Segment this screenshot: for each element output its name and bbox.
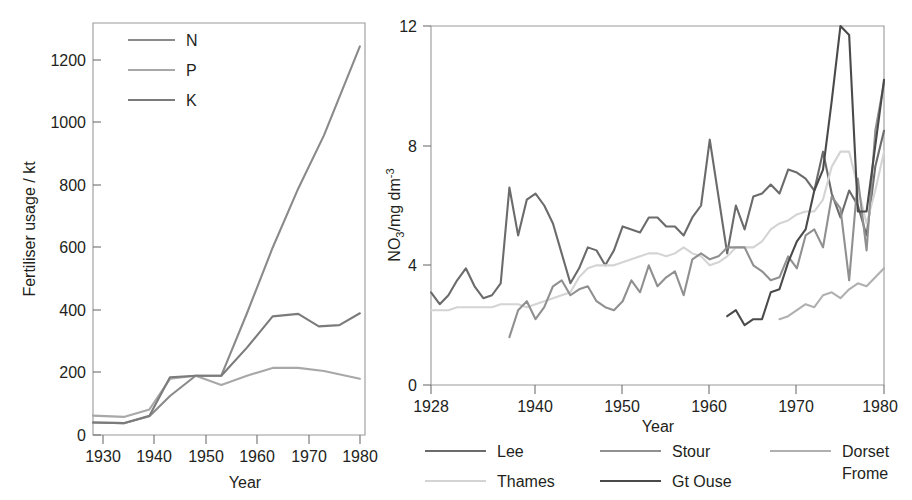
right-yaxis-sup: -3 <box>384 168 396 178</box>
left-y-ticks <box>93 60 101 435</box>
legend-label-gt-ouse: Gt Ouse <box>672 473 732 490</box>
right-legend: Lee Thames Stour Gt Ouse Dorset Frome <box>425 443 890 490</box>
right-y-ticks <box>423 26 431 385</box>
right-xtick-label-1940: 1940 <box>517 398 553 415</box>
left-xtick-label-1960: 1960 <box>239 448 275 465</box>
dual-line-chart-svg: 0 200 400 600 800 1000 1200 1930 1940 19… <box>0 0 912 500</box>
left-xtick-label-1970: 1970 <box>291 448 327 465</box>
left-xtick-label-1950: 1950 <box>188 448 224 465</box>
right-ytick-label-4: 4 <box>408 257 417 274</box>
legend-label-P: P <box>186 62 197 79</box>
left-ytick-label-200: 200 <box>59 364 86 381</box>
left-xaxis-title: Year <box>229 474 262 491</box>
legend-label-thames: Thames <box>497 473 555 490</box>
legend-label-K: K <box>186 92 197 109</box>
left-series-group <box>93 46 360 423</box>
right-yaxis-base: NO <box>386 238 403 262</box>
right-xtick-label-1928: 1928 <box>413 398 449 415</box>
legend-label-N: N <box>186 32 198 49</box>
right-ytick-label-8: 8 <box>408 138 417 155</box>
right-series-group <box>431 26 884 337</box>
left-xtick-label-1940: 1940 <box>136 448 172 465</box>
left-ytick-label-1200: 1200 <box>50 52 86 69</box>
left-ytick-label-800: 800 <box>59 177 86 194</box>
left-ytick-label-400: 400 <box>59 302 86 319</box>
right-xtick-label-1970: 1970 <box>778 398 814 415</box>
series-line-dorset-frome <box>779 268 884 319</box>
right-xtick-label-1980: 1980 <box>862 398 898 415</box>
left-ytick-label-1000: 1000 <box>50 114 86 131</box>
left-xtick-label-1980: 1980 <box>342 448 378 465</box>
left-xtick-label-1930: 1930 <box>85 448 121 465</box>
left-ytick-label-600: 600 <box>59 239 86 256</box>
right-plot-frame <box>431 26 884 385</box>
legend-label-lee: Lee <box>497 443 524 460</box>
left-plot-frame <box>93 23 365 435</box>
right-yaxis-mid: /mg dm <box>386 178 403 231</box>
right-x-ticks <box>431 385 884 394</box>
right-xaxis-title: Year <box>642 418 675 435</box>
right-ytick-label-12: 12 <box>399 18 417 35</box>
left-yaxis-title: Fertiliser usage / kt <box>21 161 38 297</box>
series-line-P <box>93 368 360 417</box>
right-ytick-label-0: 0 <box>408 377 417 394</box>
figure-container: 0 200 400 600 800 1000 1200 1930 1940 19… <box>0 0 912 500</box>
left-legend: N P K <box>128 32 198 109</box>
left-chart-group: 0 200 400 600 800 1000 1200 1930 1940 19… <box>21 23 378 491</box>
series-line-gt-ouse <box>727 26 884 325</box>
series-line-K <box>93 313 360 423</box>
left-x-ticks <box>103 435 360 444</box>
legend-label-stour: Stour <box>672 443 711 460</box>
series-line-lee <box>431 131 884 305</box>
series-line-N <box>93 46 360 423</box>
legend-label-frome: Frome <box>842 465 888 482</box>
right-yaxis-title: NO3/mg dm-3 <box>384 168 406 261</box>
left-ytick-label-0: 0 <box>77 427 86 444</box>
right-xtick-label-1960: 1960 <box>691 398 727 415</box>
right-xtick-label-1950: 1950 <box>604 398 640 415</box>
right-chart-group: 0 4 8 12 1928 1940 1950 1960 1970 1980 Y… <box>384 18 898 490</box>
legend-label-dorset: Dorset <box>842 443 890 460</box>
svg-text:NO3/mg dm-3: NO3/mg dm-3 <box>384 168 406 261</box>
